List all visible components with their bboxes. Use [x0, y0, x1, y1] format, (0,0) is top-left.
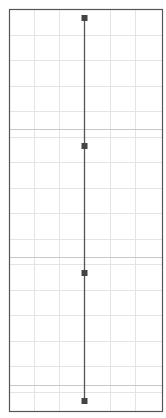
major-grid-lines — [9, 130, 162, 386]
square-marker-icon — [82, 398, 88, 404]
frame-rect — [10, 10, 163, 412]
minor-grid-lines — [9, 9, 162, 411]
frame-border — [10, 10, 163, 412]
square-marker-icon — [82, 270, 88, 276]
timeline-diagram — [0, 0, 166, 418]
square-marker-icon — [82, 143, 88, 149]
square-marker-icon — [82, 15, 88, 21]
